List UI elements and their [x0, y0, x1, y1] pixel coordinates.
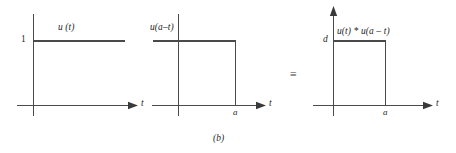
- panel-unit-step-graphics: [17, 14, 138, 116]
- panel3-tick-label-a: a: [383, 108, 388, 117]
- panel1-horizontal-axis-arrow-icon: [128, 102, 138, 109]
- panel3-vertical-axis-arrow-icon: [330, 6, 337, 16]
- panel3-axis-label-t: t: [436, 99, 439, 109]
- panel1-amplitude-label: 1: [21, 35, 26, 45]
- panel3-horizontal-axis-arrow-icon: [423, 102, 433, 109]
- panel2-axis-label-t: t: [269, 99, 272, 109]
- panel2-horizontal-axis-arrow-icon: [256, 102, 266, 109]
- figure-container: u (t) 1 t u(a–t) a t ≡ u(t) * u(a – t) d…: [0, 0, 456, 153]
- panel1-axis-label-t: t: [141, 99, 144, 109]
- panel1-signal-label: u (t): [58, 23, 75, 33]
- equivalence-symbol: ≡: [290, 67, 297, 82]
- panel3-signal-label: u(t) * u(a – t): [337, 27, 390, 37]
- panel2-signal-label: u(a–t): [150, 23, 174, 33]
- panel3-amplitude-label: d: [323, 35, 328, 45]
- panel2-tick-label-a: a: [233, 108, 238, 117]
- panel-convolution-result-graphics: [313, 6, 433, 116]
- figure-caption: (b): [213, 133, 224, 143]
